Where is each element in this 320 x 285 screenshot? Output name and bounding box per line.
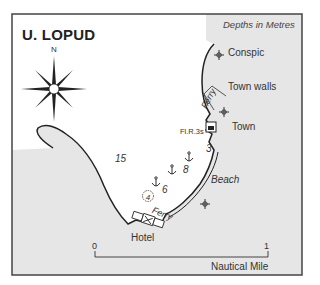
light-characteristic-label: Fl.R.3s bbox=[180, 128, 204, 136]
hotel-label: Hotel bbox=[131, 233, 154, 243]
depth-sounding: 3 bbox=[206, 144, 212, 154]
scale-start: 0 bbox=[92, 242, 97, 251]
marked-depth: 4 bbox=[146, 193, 151, 202]
town-walls-label: Town walls bbox=[228, 82, 276, 92]
depth-units-note: Depths in Metres bbox=[223, 20, 295, 30]
north-label: N bbox=[51, 46, 57, 54]
scale-end: 1 bbox=[264, 242, 269, 251]
conspic-label: Conspic bbox=[228, 48, 264, 58]
depth-sounding: 15 bbox=[115, 154, 126, 164]
town-label: Town bbox=[232, 122, 255, 132]
chart-title: U. LOPUD bbox=[22, 27, 95, 42]
beach-label: Beach bbox=[211, 175, 239, 185]
scale-unit-label: Nautical Mile bbox=[211, 262, 268, 272]
depth-sounding: 8 bbox=[183, 165, 189, 175]
depth-sounding: 6 bbox=[162, 185, 168, 195]
light-icon bbox=[208, 126, 214, 130]
